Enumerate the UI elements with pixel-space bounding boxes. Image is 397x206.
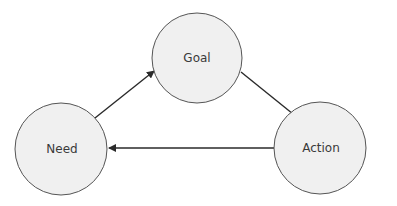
- node-action: Action: [274, 102, 366, 194]
- need-label: Need: [46, 142, 77, 156]
- node-goal: Goal: [152, 13, 242, 103]
- edge-goal-to-action: [241, 72, 298, 118]
- cycle-diagram: Goal Action Need: [0, 0, 397, 206]
- node-need: Need: [15, 103, 107, 195]
- action-label: Action: [302, 141, 340, 155]
- goal-label: Goal: [183, 51, 210, 65]
- edge-need-to-goal: [95, 71, 154, 118]
